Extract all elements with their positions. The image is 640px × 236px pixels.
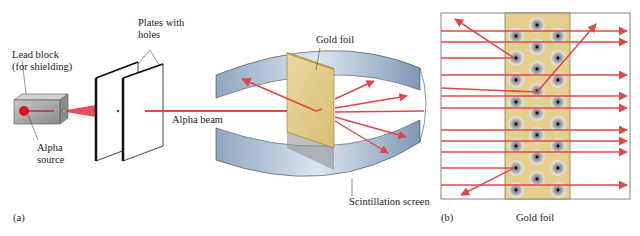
label-gold-foil: Gold foil	[316, 34, 354, 46]
label-text: source	[37, 154, 64, 166]
caption-b: (b)	[441, 212, 453, 224]
beam-cone	[66, 105, 96, 117]
label-text: Lead block	[12, 49, 72, 61]
label-text: Alpha	[37, 142, 64, 154]
lead-block	[14, 94, 68, 124]
alpha-source-icon	[19, 106, 29, 116]
label-scintillation-screen: Scintillation screen	[349, 196, 430, 208]
caption-a: (a)	[13, 212, 25, 224]
label-alpha-beam: Alpha beam	[172, 114, 223, 126]
label-text: (for shielding)	[12, 61, 72, 73]
label-gold-foil-b: Gold foil	[516, 212, 554, 224]
label-plates: Plates with holes	[138, 17, 184, 41]
label-lead-block: Lead block (for shielding)	[12, 49, 72, 73]
label-text: Plates with	[138, 17, 184, 29]
label-alpha-source: Alpha source	[37, 142, 64, 166]
label-text: holes	[138, 29, 184, 41]
